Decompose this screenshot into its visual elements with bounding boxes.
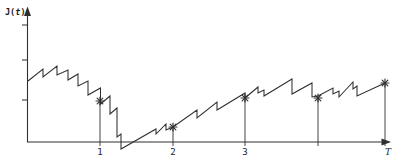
sample-marker-asterisk-icon bbox=[314, 94, 322, 102]
generated-ticks-and-markers: 123T bbox=[22, 25, 392, 157]
function-plot-figure: J(t) 123T bbox=[0, 0, 396, 161]
sample-marker-asterisk-icon bbox=[96, 97, 104, 105]
sample-marker-asterisk-icon bbox=[381, 79, 389, 87]
x-axis-tick-label: 2 bbox=[170, 147, 175, 157]
y-axis-label: J(t) bbox=[5, 7, 26, 17]
y-axis-label-suffix: ) bbox=[20, 7, 25, 17]
y-axis-label-prefix: J( bbox=[5, 7, 15, 17]
sample-marker-asterisk-icon bbox=[241, 94, 249, 102]
x-axis-tick-label: 1 bbox=[97, 147, 102, 157]
figure-canvas: J(t) 123T bbox=[0, 0, 396, 161]
x-axis-arrowhead-icon bbox=[382, 139, 392, 146]
x-axis-tick-label: 3 bbox=[242, 147, 247, 157]
x-axis-tick-label: T bbox=[385, 147, 392, 157]
sample-marker-asterisk-icon bbox=[169, 123, 177, 131]
j-of-t-sawtooth-curve bbox=[28, 66, 385, 149]
